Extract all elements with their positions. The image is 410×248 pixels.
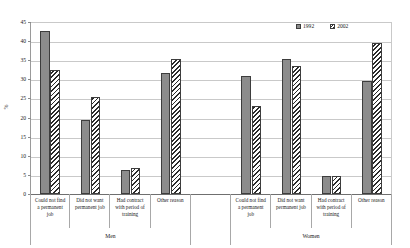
bar-women-cat0-2002 (252, 106, 262, 194)
y-axis-label: % (3, 92, 9, 122)
category-cell-men-1: Did not wantpermanent job (70, 194, 110, 228)
y-tick-label-10: 10 (0, 153, 26, 159)
bar-men-cat0-1992 (40, 31, 50, 194)
y-tick-label-30: 30 (0, 76, 26, 82)
legend: 1992 2002 (296, 23, 348, 29)
group-label-women: Women (231, 228, 392, 245)
category-label-line: Did not want (70, 197, 109, 204)
bar-women-cat1-1992 (282, 59, 292, 194)
category-label-row: Could not finda permanentjobDid not want… (30, 194, 392, 228)
category-label-line: Could not find (31, 197, 69, 204)
category-label-line: a permanent (31, 204, 69, 211)
category-label-line: permanent job (70, 204, 109, 211)
legend-label-2002: 2002 (337, 23, 348, 29)
category-cell-men-2: Had contractwith period oftraining (110, 194, 150, 228)
category-label-line: Could not find (231, 197, 270, 204)
legend-swatch-1992 (296, 24, 301, 29)
y-tick-label-40: 40 (0, 38, 26, 44)
bar-women-cat2-1992 (322, 176, 332, 194)
bar-men-cat1-2002 (91, 97, 101, 194)
legend-item-2002: 2002 (330, 23, 348, 29)
category-label-line: with period of (110, 204, 149, 211)
bar-women-cat3-1992 (362, 81, 372, 194)
bar-men-cat3-2002 (171, 59, 181, 194)
category-label-line: with period of (312, 204, 351, 211)
bar-women-cat0-1992 (241, 76, 251, 194)
category-label-line: Had contract (312, 197, 351, 204)
bars-layer (30, 22, 392, 194)
category-label-line: training (312, 211, 351, 218)
bar-men-cat1-1992 (81, 120, 91, 194)
category-cell-women-0: Could not finda permanentjob (231, 194, 271, 228)
category-cell-women-1: Did not wantpermanent job (271, 194, 311, 228)
bar-men-cat2-1992 (121, 170, 131, 194)
group-label-row: MenWomen (30, 228, 392, 245)
bar-men-cat3-1992 (161, 73, 171, 194)
legend-label-1992: 1992 (303, 23, 314, 29)
bar-men-cat0-2002 (50, 70, 60, 194)
category-label-line: job (31, 211, 69, 218)
category-label-line: training (110, 211, 149, 218)
legend-swatch-2002 (330, 24, 335, 29)
category-label-line: Other reason (151, 197, 190, 204)
y-tick-label-35: 35 (0, 57, 26, 63)
category-cell-men-0: Could not finda permanentjob (30, 194, 70, 228)
bar-women-cat2-2002 (332, 176, 342, 194)
category-cell-women-2: Had contractwith period oftraining (312, 194, 352, 228)
group-cell-spacer (191, 228, 231, 245)
category-label-line: a permanent (231, 204, 270, 211)
category-cell-men-3: Other reason (151, 194, 191, 228)
bar-women-cat3-2002 (372, 43, 382, 194)
category-label-line: job (231, 211, 270, 218)
legend-item-1992: 1992 (296, 23, 314, 29)
bar-chart: 454035302520151050 % 1992 2002 Could not… (0, 0, 410, 248)
category-label-line: Had contract (110, 197, 149, 204)
y-tick-label-45: 45 (0, 19, 26, 25)
category-cell-women-3: Other reason (352, 194, 392, 228)
category-label-line: Did not want (271, 197, 310, 204)
y-tick-label-15: 15 (0, 134, 26, 140)
bar-women-cat1-2002 (292, 66, 302, 194)
category-label-line: Other reason (352, 197, 391, 204)
bar-men-cat2-2002 (131, 168, 141, 194)
category-label-line: permanent job (271, 204, 310, 211)
y-tick-label-5: 5 (0, 172, 26, 178)
group-label-men: Men (30, 228, 191, 245)
y-tick-label-0: 0 (0, 191, 26, 197)
category-cell-spacer (191, 194, 231, 228)
